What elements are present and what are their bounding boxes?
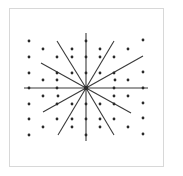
grid-dot — [85, 56, 88, 59]
grid-dot — [142, 39, 145, 42]
grid-dot — [127, 79, 130, 82]
grid-dot — [28, 72, 31, 75]
grid-dot — [99, 103, 102, 106]
grid-dot — [28, 56, 31, 59]
grid-dot — [42, 126, 45, 129]
grid-dot — [57, 95, 60, 98]
center-point — [84, 86, 88, 90]
grid-dot — [71, 48, 74, 51]
grid-dot — [28, 134, 31, 137]
grid-dot — [85, 72, 88, 75]
grid-dot — [99, 118, 102, 121]
grid-dot — [113, 118, 116, 121]
grid-dot — [71, 118, 74, 121]
grid-dot — [113, 56, 116, 59]
grid-dot — [114, 79, 117, 82]
grid-dot — [99, 48, 102, 51]
grid-dot — [127, 95, 130, 98]
grid-dot — [56, 87, 59, 90]
grid-dot — [127, 48, 130, 51]
grid-dot — [56, 118, 59, 121]
ray-line — [86, 88, 131, 113]
grid-dot — [142, 133, 145, 136]
grid-dot — [28, 40, 31, 43]
grid-dot — [85, 103, 88, 106]
grid-dot — [99, 56, 102, 59]
grid-dot — [42, 48, 45, 51]
grid-dot — [56, 103, 59, 106]
grid-dot — [142, 102, 145, 105]
grid-dot — [127, 126, 130, 129]
grid-dot — [85, 134, 88, 137]
grid-dot — [113, 72, 116, 75]
grid-dot — [85, 118, 88, 121]
grid-dot — [28, 118, 31, 121]
grid-dot — [142, 71, 145, 74]
ray-line — [43, 88, 86, 112]
grid-dot — [28, 103, 31, 106]
grid-dot — [71, 103, 74, 106]
grid-dot — [42, 95, 45, 98]
grid-dot — [142, 87, 145, 90]
grid-dot — [71, 56, 74, 59]
grid-dot — [142, 117, 145, 120]
grid-dot — [113, 95, 116, 98]
grid-dot — [71, 72, 74, 75]
grid-dot — [56, 79, 59, 82]
grid-dot — [42, 79, 45, 82]
grid-dot — [71, 126, 74, 129]
grid-dot — [28, 87, 31, 90]
grid-dot — [99, 126, 102, 129]
grid-dot — [56, 56, 59, 59]
grid-dot — [85, 40, 88, 43]
grid-dot — [113, 103, 116, 106]
radial-grid-diagram — [0, 0, 183, 176]
grid-dot — [113, 87, 116, 90]
grid-dot — [56, 72, 59, 75]
ray-line — [41, 63, 86, 88]
grid-dot — [99, 72, 102, 75]
